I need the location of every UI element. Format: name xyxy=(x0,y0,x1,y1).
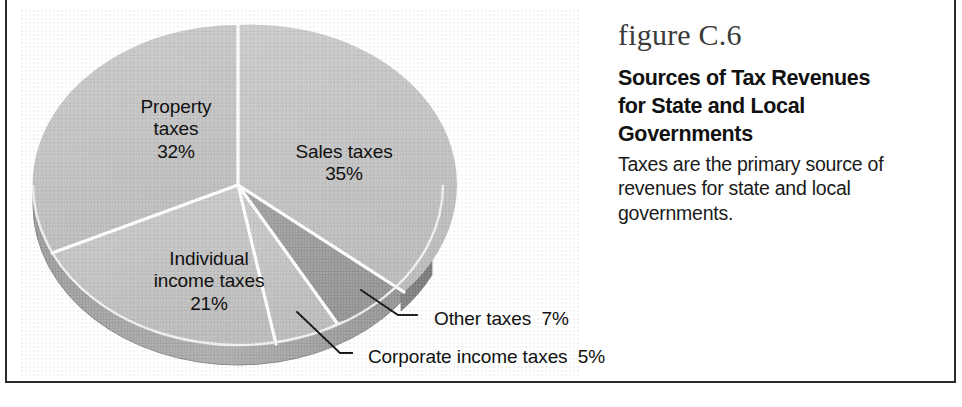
callout-label-other-taxes: Other taxes 7% xyxy=(434,308,569,330)
figure-panel: Property taxes 32% Sales taxes 35% Indiv… xyxy=(0,0,962,407)
figure-title-line-3: Governments xyxy=(618,121,948,147)
slice-label-sales-taxes: Sales taxes 35% xyxy=(274,141,414,186)
figure-caption-line-1: Taxes are the primary source of xyxy=(618,152,948,177)
figure-number-label: figure C.6 xyxy=(618,18,948,51)
slice-label-individual-income-taxes: Individual income taxes 21% xyxy=(124,248,294,315)
callout-label-corporate-income-taxes: Corporate income taxes 5% xyxy=(368,346,605,368)
figure-title-line-2: for State and Local xyxy=(618,93,948,119)
figure-caption-column: figure C.6 Sources of Tax Revenues for S… xyxy=(618,18,948,226)
figure-frame-left-border xyxy=(5,0,7,383)
figure-title: Sources of Tax Revenues for State and Lo… xyxy=(618,65,948,148)
pie-chart: Property taxes 32% Sales taxes 35% Indiv… xyxy=(20,8,580,378)
slice-label-property-taxes: Property taxes 32% xyxy=(106,96,246,163)
figure-caption-line-2: revenues for state and local xyxy=(618,176,948,201)
figure-caption-line-3: governments. xyxy=(618,201,948,226)
figure-frame-right-border xyxy=(954,0,956,383)
figure-frame-bottom-border xyxy=(5,381,956,383)
figure-title-line-1: Sources of Tax Revenues xyxy=(618,65,948,91)
figure-caption-text: Taxes are the primary source of revenues… xyxy=(618,152,948,226)
